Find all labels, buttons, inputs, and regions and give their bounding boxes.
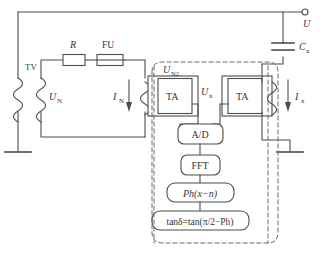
terminal-u-node (302, 9, 308, 15)
secondary-loop-right-upper (125, 60, 145, 78)
label-adc: A/D (191, 129, 208, 140)
label-un2-sub: N2 (171, 70, 179, 77)
label-ix-sub: x (301, 97, 305, 105)
current-arrow-in-head (126, 102, 132, 112)
label-tv: TV (25, 62, 37, 72)
label-ta-left: TA (166, 91, 179, 102)
circuit-diagram-canvas: TV R FU U N I N U N2 TA U x TA I x C x U… (0, 0, 322, 260)
label-fuse: FU (102, 40, 114, 50)
label-ux-sub: x (209, 92, 213, 100)
label-un: U (49, 91, 57, 102)
label-phase: Ph(x−n) (182, 188, 218, 200)
label-in: I (112, 91, 117, 102)
label-un2: U (163, 64, 171, 75)
label-ix: I (294, 91, 299, 102)
label-fft: FFT (191, 160, 208, 171)
label-cx-sub: x (306, 47, 310, 55)
label-un-sub: N (57, 97, 62, 105)
label-terminal-u: U (303, 18, 311, 29)
label-tand: tanδ=tan(π/2−Ph) (167, 217, 234, 228)
tv-secondary-bottom-lead (41, 112, 145, 137)
wire-ta-right-to-ground (262, 112, 290, 152)
label-resistor: R (69, 39, 76, 50)
label-ta-right: TA (236, 91, 249, 102)
label-cx: C (299, 41, 306, 52)
label-ux: U (201, 86, 209, 97)
label-in-sub: N (119, 97, 124, 105)
current-arrow-ix-head (285, 102, 291, 112)
resistor-body (63, 55, 85, 66)
tv-secondary-top-lead (41, 60, 63, 78)
